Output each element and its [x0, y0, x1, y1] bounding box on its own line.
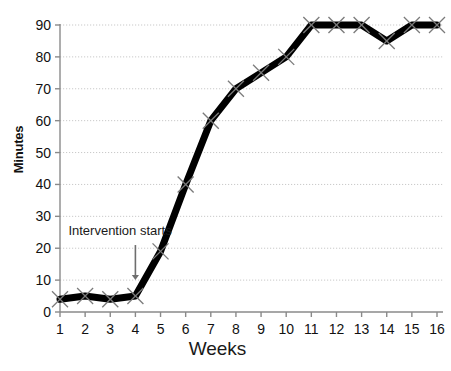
plot-area: 0102030405060708090 12345678910111213141… [0, 0, 451, 371]
x-tick-label: 7 [207, 321, 215, 337]
y-tick-label: 50 [35, 145, 51, 161]
x-axis-title-text: Weeks [189, 338, 247, 360]
x-tick-labels-group: 12345678910111213141516 [56, 312, 445, 337]
y-tick-label: 40 [35, 176, 51, 192]
x-tick-label: 11 [304, 321, 319, 337]
y-tick-label: 70 [35, 81, 51, 97]
axes-group [60, 24, 443, 312]
x-tick-label: 4 [132, 321, 140, 337]
y-tick-label: 20 [35, 240, 51, 256]
data-markers-group [52, 17, 445, 307]
gridlines-group [60, 25, 443, 280]
annotation-arrow-head [132, 275, 139, 280]
x-tick-label: 8 [232, 321, 240, 337]
line-chart: Minutes 0102030405060708090 123456789101… [0, 0, 451, 371]
y-tick-labels-group: 0102030405060708090 [35, 17, 60, 320]
y-tick-label: 10 [35, 272, 51, 288]
y-tick-label: 0 [43, 304, 51, 320]
x-tick-label: 16 [429, 321, 445, 337]
data-series-group [60, 25, 437, 299]
x-axis-title: Weeks [0, 338, 451, 360]
x-tick-label: 12 [329, 321, 345, 337]
x-tick-label: 13 [354, 321, 370, 337]
x-tick-label: 15 [404, 321, 420, 337]
x-tick-label: 5 [157, 321, 165, 337]
x-tick-label: 1 [56, 321, 64, 337]
x-tick-label: 9 [257, 321, 265, 337]
x-tick-label: 2 [81, 321, 89, 337]
annotation-label: Intervention starts [68, 223, 172, 238]
y-tick-label: 80 [35, 49, 51, 65]
x-tick-label: 6 [182, 321, 190, 337]
data-line [60, 25, 437, 299]
y-tick-label: 30 [35, 208, 51, 224]
y-tick-label: 90 [35, 17, 51, 33]
y-tick-label: 60 [35, 113, 51, 129]
x-tick-label: 10 [278, 321, 294, 337]
x-tick-label: 3 [106, 321, 114, 337]
x-tick-label: 14 [379, 321, 395, 337]
